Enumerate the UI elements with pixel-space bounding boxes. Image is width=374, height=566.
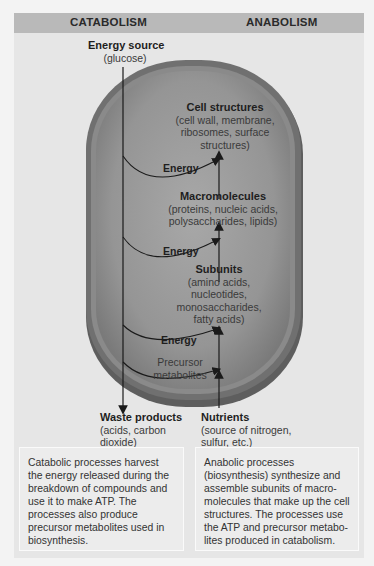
cell-structures-label: Cell structures (cell wall, membrane, ri… [162,101,288,151]
catabolism-caption: Catabolic processes harvest the energy r… [19,447,184,551]
precursor-metabolites-label: Precursor metabolites [146,356,214,381]
nutrients-label: Nutrients (source of nitrogen, sulfur, e… [201,411,291,449]
energy-label-2: Energy [163,245,199,258]
energy-label-3: Energy [161,334,197,347]
waste-products-label: Waste products (acids, carbon dioxide) [100,411,182,449]
energy-label-1: Energy [163,162,199,175]
macromolecules-label: Macromolecules (proteins, nucleic acids,… [160,190,286,228]
energy-source-label: Energy source (glucose) [88,39,162,64]
subunits-label: Subunits (amino acids, nucleotides, mono… [173,263,265,326]
anabolism-caption: Anabolic processes (biosynthesis) synthe… [195,447,359,551]
